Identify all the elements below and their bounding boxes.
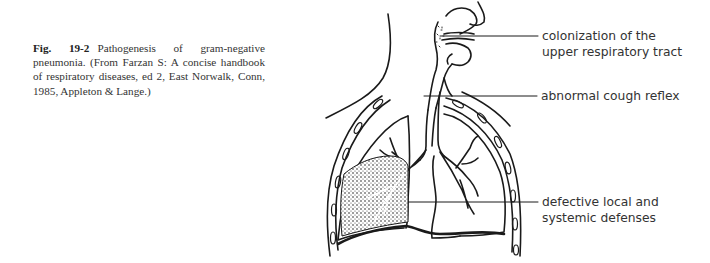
label-cough-reflex-line1: abnormal cough reflex (541, 88, 680, 104)
label-colonization-line1: colonization of the (542, 28, 682, 44)
label-colonization: colonization of the upper respiratory tr… (542, 28, 682, 60)
neck-outline-left (326, 14, 391, 118)
trachea-right (438, 92, 444, 156)
consolidated-lung-region (341, 156, 408, 236)
label-cough-reflex: abnormal cough reflex (541, 88, 680, 104)
label-defenses: defective local and systemic defenses (542, 194, 659, 226)
label-defenses-line1: defective local and (542, 194, 659, 210)
nasal-cavity-outline (446, 8, 477, 34)
label-colonization-line2: upper respiratory tract (542, 44, 682, 60)
label-defenses-line2: systemic defenses (542, 210, 659, 226)
